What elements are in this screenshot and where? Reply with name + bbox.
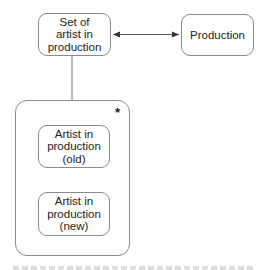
- artist-new-node[interactable]: Artist in production (new): [38, 192, 110, 236]
- artist-old-node[interactable]: Artist in production (old): [38, 125, 110, 168]
- set-of-artist-node[interactable]: Set of artist in production: [38, 13, 111, 56]
- production-node[interactable]: Production: [181, 14, 254, 56]
- set-of-artist-label: Set of artist in production: [48, 16, 102, 54]
- production-label: Production: [190, 29, 245, 42]
- artist-new-label: Artist in production (new): [47, 195, 101, 233]
- clipped-caption: [13, 266, 253, 270]
- multiplicity-star: *: [115, 108, 120, 118]
- artist-old-label: Artist in production (old): [47, 128, 101, 166]
